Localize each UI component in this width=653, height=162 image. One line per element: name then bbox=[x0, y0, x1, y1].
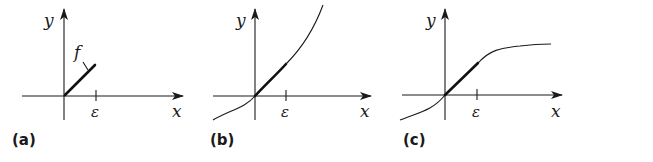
panel-label-b: (b) bbox=[210, 131, 234, 149]
y-axis-label: y bbox=[425, 10, 436, 30]
curve-left bbox=[400, 95, 445, 120]
curve-left bbox=[213, 96, 255, 120]
function-segment bbox=[65, 65, 95, 95]
x-axis-label: x bbox=[172, 101, 182, 121]
panel-label-a: (a) bbox=[12, 131, 36, 149]
epsilon-label: ε bbox=[281, 103, 289, 121]
curve-right bbox=[286, 5, 323, 64]
y-axis-label: y bbox=[235, 10, 246, 30]
panel-label-c: (c) bbox=[403, 131, 426, 149]
figure: y x ε f (a) y x ε (b) y x ε (c) bbox=[0, 0, 653, 162]
epsilon-label: ε bbox=[91, 103, 99, 121]
function-label: f bbox=[72, 42, 83, 62]
epsilon-label: ε bbox=[472, 103, 480, 121]
y-axis-label: y bbox=[43, 10, 54, 30]
panel-c: y x ε (c) bbox=[400, 9, 562, 149]
f-pointer bbox=[83, 62, 88, 70]
curve-right bbox=[478, 44, 551, 63]
curve-linear-segment bbox=[255, 64, 286, 96]
x-axis-label: x bbox=[551, 101, 561, 121]
curve-linear-segment bbox=[445, 63, 478, 95]
panel-b: y x ε (b) bbox=[210, 5, 371, 149]
panel-a: y x ε f (a) bbox=[12, 9, 183, 149]
x-axis-label: x bbox=[360, 101, 370, 121]
